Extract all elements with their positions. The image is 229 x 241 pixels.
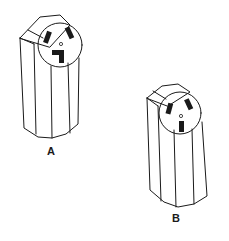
receptacle-b-slots bbox=[166, 98, 194, 132]
receptacle-b bbox=[147, 84, 207, 207]
receptacle-a-slots bbox=[43, 26, 74, 63]
label-b: B bbox=[172, 212, 180, 224]
label-a: A bbox=[47, 145, 55, 157]
receptacle-diagram bbox=[0, 0, 229, 241]
